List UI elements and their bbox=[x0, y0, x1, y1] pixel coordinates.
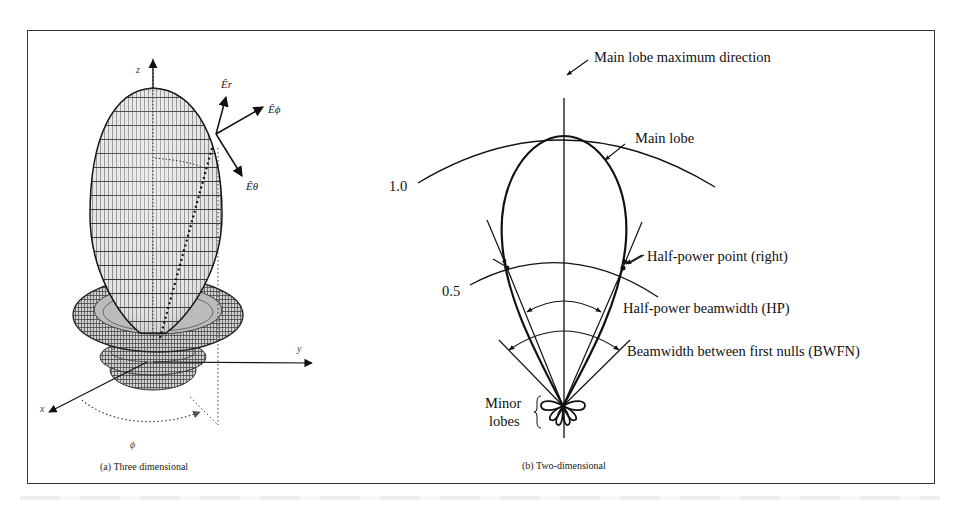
e-r-label: Êr bbox=[220, 78, 233, 90]
e-theta-vector bbox=[216, 134, 242, 176]
e-phi-vector bbox=[216, 107, 263, 134]
label-hp-beamwidth: Half-power beamwidth (HP) bbox=[623, 300, 790, 317]
level-label-0-5: 0.5 bbox=[442, 283, 460, 299]
radiation-pattern-figure: z y x ϕ Êr Êϕ Êθ (a) Three dimensional bbox=[0, 0, 957, 509]
level-arc-1-0 bbox=[418, 140, 715, 187]
x-axis-label: x bbox=[39, 403, 45, 414]
panel-a-3d: z y x ϕ Êr Êϕ Êθ (a) Three dimensional bbox=[39, 58, 312, 473]
z-axis-label: z bbox=[135, 64, 140, 75]
label-bwfn: Beamwidth between first nulls (BWFN) bbox=[627, 343, 860, 360]
e-theta-label: Êθ bbox=[245, 180, 259, 192]
y-axis-label: y bbox=[296, 343, 302, 354]
level-label-1-0: 1.0 bbox=[389, 178, 407, 194]
label-lobes: lobes bbox=[489, 413, 520, 429]
caption-b: (b) Two-dimensional bbox=[522, 460, 606, 472]
cutoff-text-line bbox=[20, 496, 940, 500]
label-main-lobe-max-direction: Main lobe maximum direction bbox=[594, 49, 772, 65]
phi-label: ϕ bbox=[130, 439, 135, 450]
label-minor: Minor bbox=[485, 395, 521, 411]
caption-a: (a) Three dimensional bbox=[100, 461, 188, 473]
e-phi-label: Êϕ bbox=[267, 103, 281, 115]
minor-lobes-2d bbox=[541, 401, 585, 425]
label-main-lobe: Main lobe bbox=[635, 130, 694, 146]
label-half-power-point: Half-power point (right) bbox=[647, 248, 788, 265]
